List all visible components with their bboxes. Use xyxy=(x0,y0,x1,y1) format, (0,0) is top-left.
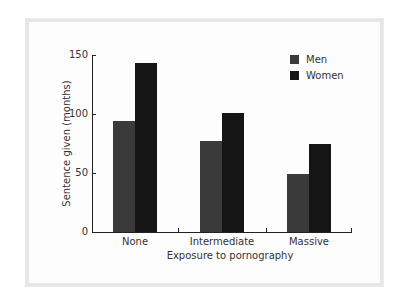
bar-women-none xyxy=(135,63,157,232)
x-tick xyxy=(178,228,179,232)
x-axis xyxy=(92,232,352,233)
y-tick-label-100: 100 xyxy=(58,108,88,119)
category-label-massive: Massive xyxy=(269,236,349,247)
x-tick xyxy=(266,228,267,232)
y-tick xyxy=(92,173,96,174)
legend-item-men: Men xyxy=(290,54,327,65)
x-axis-title: Exposure to pornography xyxy=(150,250,310,261)
bar-men-massive xyxy=(287,174,309,232)
bar-women-intermediate xyxy=(222,113,244,232)
bar-men-none xyxy=(113,121,135,232)
legend-swatch-men xyxy=(290,55,299,64)
x-tick xyxy=(351,228,352,232)
bar-women-massive xyxy=(309,144,331,233)
y-tick xyxy=(92,114,96,115)
category-label-none: None xyxy=(95,236,175,247)
y-tick-label-50: 50 xyxy=(58,167,88,178)
y-tick-label-0: 0 xyxy=(58,226,88,237)
legend-label-men: Men xyxy=(306,54,327,65)
category-label-intermediate: Intermediate xyxy=(182,236,262,247)
bar-men-intermediate xyxy=(200,141,222,232)
y-tick-label-150: 150 xyxy=(58,49,88,60)
y-tick xyxy=(92,55,96,56)
legend-label-women: Women xyxy=(306,70,344,81)
y-axis-title: Sentence given (months) xyxy=(61,74,72,214)
legend-item-women: Women xyxy=(290,70,344,81)
y-axis xyxy=(92,55,93,232)
legend-swatch-women xyxy=(290,71,299,80)
